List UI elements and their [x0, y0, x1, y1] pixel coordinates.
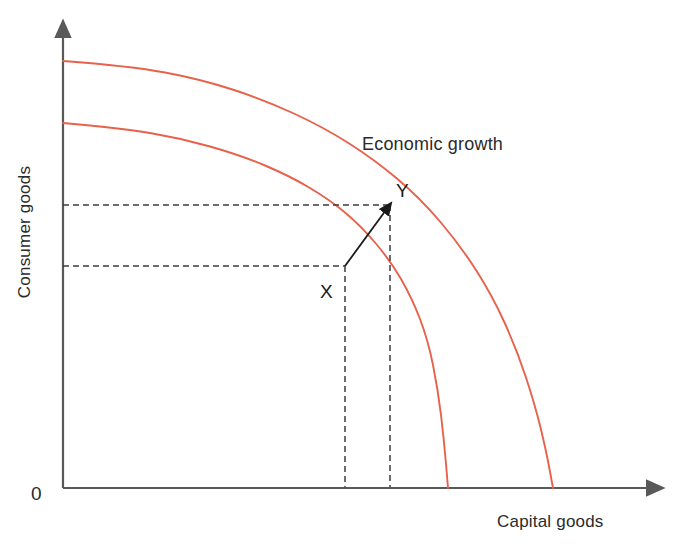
economic-growth-label: Economic growth: [362, 134, 503, 154]
x-axis-label: Capital goods: [497, 512, 604, 531]
y-axis-label: Consumer goods: [15, 166, 34, 298]
origin-label: 0: [31, 483, 42, 504]
ppf-economic-growth-diagram: 0 Consumer goods Capital goods Economic …: [0, 0, 676, 547]
point-x-label: X: [320, 281, 333, 302]
point-y-label: Y: [396, 180, 409, 201]
canvas-background: [0, 0, 676, 547]
